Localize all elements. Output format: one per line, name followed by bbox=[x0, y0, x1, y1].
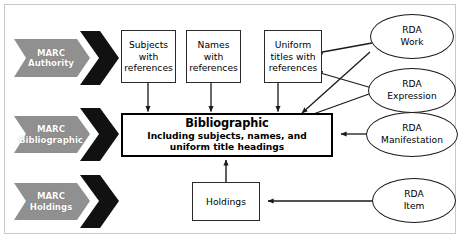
marc-authority-label: MARC Authority bbox=[14, 39, 88, 77]
box-uniform-titles-with-references[interactable]: Uniform titles with references bbox=[264, 30, 322, 83]
oval-rda-item[interactable]: RDA Item bbox=[372, 178, 456, 223]
marc-holdings-banner[interactable]: MARC Holdings bbox=[14, 183, 90, 220]
rda-work-line1: RDA bbox=[402, 25, 421, 36]
names-box-line2: with bbox=[204, 51, 224, 63]
marc-holdings-line2: Holdings bbox=[30, 202, 73, 212]
subjects-box-line1: Subjects bbox=[129, 39, 168, 51]
rda-item-line2: Item bbox=[404, 201, 425, 212]
rda-manifestation-line1: RDA bbox=[402, 123, 421, 134]
marc-authority-line2: Authority bbox=[28, 58, 74, 68]
uniform-titles-box-line3: references bbox=[269, 62, 318, 74]
oval-rda-work[interactable]: RDA Work bbox=[370, 14, 454, 59]
bibliographic-subtitle-line1: Including subjects, names, and bbox=[147, 131, 306, 142]
box-subjects-with-references[interactable]: Subjects with references bbox=[121, 30, 176, 83]
marc-holdings-label: MARC Holdings bbox=[14, 183, 88, 220]
rda-work-line2: Work bbox=[400, 37, 423, 48]
box-bibliographic[interactable]: Bibliographic Including subjects, names,… bbox=[121, 113, 333, 157]
marc-holdings-line1: MARC bbox=[37, 191, 65, 201]
rda-item-line1: RDA bbox=[404, 189, 423, 200]
uniform-titles-box-line2: titles with bbox=[270, 51, 315, 63]
marc-bibliographic-label: MARC Bibliographic bbox=[14, 116, 88, 153]
box-holdings[interactable]: Holdings bbox=[192, 182, 260, 221]
rda-manifestation-line2: Manifestation bbox=[381, 135, 443, 146]
bibliographic-title: Bibliographic bbox=[185, 117, 268, 130]
marc-authority-banner[interactable]: MARC Authority bbox=[14, 39, 90, 77]
rda-expression-line1: RDA bbox=[402, 79, 421, 90]
names-box-line1: Names bbox=[198, 39, 230, 51]
subjects-box-line2: with bbox=[139, 51, 159, 63]
diagram-canvas: MARC Authority MARC Bibliographic MARC H… bbox=[0, 0, 462, 240]
marc-bibliographic-line1: MARC bbox=[37, 124, 65, 134]
marc-authority-line1: MARC bbox=[37, 48, 65, 58]
box-names-with-references[interactable]: Names with references bbox=[186, 30, 241, 83]
oval-rda-manifestation[interactable]: RDA Manifestation bbox=[366, 112, 458, 157]
subjects-box-line3: references bbox=[124, 62, 173, 74]
bibliographic-subtitle-line2: uniform title headings bbox=[170, 142, 284, 153]
holdings-label: Holdings bbox=[206, 196, 246, 207]
names-box-line3: references bbox=[189, 62, 238, 74]
marc-bibliographic-banner[interactable]: MARC Bibliographic bbox=[14, 116, 90, 153]
marc-bibliographic-line2: Bibliographic bbox=[19, 135, 83, 145]
oval-rda-expression[interactable]: RDA Expression bbox=[368, 68, 456, 113]
rda-expression-line2: Expression bbox=[387, 91, 436, 102]
uniform-titles-box-line1: Uniform bbox=[275, 39, 312, 51]
